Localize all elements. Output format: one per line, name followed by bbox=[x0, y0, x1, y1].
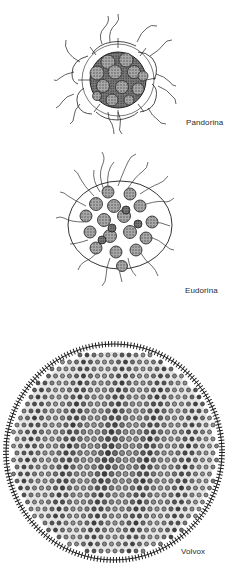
illustration-canvas bbox=[0, 0, 241, 570]
volvox-drawing bbox=[6, 344, 222, 560]
eudorina-drawing bbox=[56, 152, 174, 286]
pandorina-drawing bbox=[54, 14, 176, 134]
label-pandorina: Pandorina bbox=[186, 118, 223, 127]
label-volvox: Volvox bbox=[181, 547, 205, 556]
label-eudorina: Eudorina bbox=[185, 286, 218, 295]
